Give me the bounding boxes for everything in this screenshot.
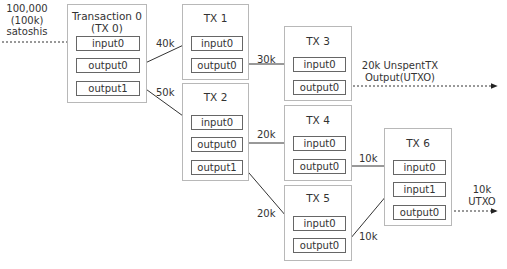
tx-title: TX 5 xyxy=(285,192,351,204)
edge-amount-tx0-tx2: 50k xyxy=(156,87,175,99)
tx0-input0[interactable]: input0 xyxy=(76,36,140,51)
tx3-output0[interactable]: output0 xyxy=(293,80,346,95)
tx6-output0[interactable]: output0 xyxy=(393,205,446,220)
transaction-0: Transaction 0 (TX 0) input0 output0 outp… xyxy=(67,4,147,103)
source-line: (100k) xyxy=(2,15,52,27)
tx0-output0[interactable]: output0 xyxy=(76,58,140,73)
utxo-line: 10k xyxy=(462,184,502,196)
transaction-4: TX 4 input0 output0 xyxy=(284,105,352,181)
tx-title: TX 3 xyxy=(285,35,351,47)
tx-title: TX 6 xyxy=(385,137,451,149)
tx-title: Transaction 0 (TX 0) xyxy=(68,10,146,34)
tx2-input0[interactable]: input0 xyxy=(191,115,243,130)
tx1-input0[interactable]: input0 xyxy=(191,36,243,51)
transaction-5: TX 5 input0 output0 xyxy=(284,185,352,261)
tx5-output0[interactable]: output0 xyxy=(293,238,346,253)
transaction-2: TX 2 input0 output0 output1 xyxy=(182,83,249,181)
tx-title-line: (TX 0) xyxy=(68,22,146,34)
tx-title-line: Transaction 0 xyxy=(68,10,146,22)
tx6-input1[interactable]: input1 xyxy=(393,182,446,197)
transaction-6: TX 6 input0 input1 output0 xyxy=(384,128,452,226)
utxo-label-tx6: 10k UTXO xyxy=(462,184,502,208)
edge-amount-tx4-tx6: 10k xyxy=(359,153,378,165)
tx4-output0[interactable]: output0 xyxy=(293,159,346,174)
tx1-output0[interactable]: output0 xyxy=(191,58,243,73)
tx-title: TX 4 xyxy=(285,114,351,126)
edge-amount-tx2-tx4: 20k xyxy=(257,129,276,141)
tx0-output1[interactable]: output1 xyxy=(76,81,140,96)
source-amount-label: 100,000 (100k) satoshis xyxy=(2,3,52,38)
tx-title: TX 2 xyxy=(183,91,248,103)
tx2-output1[interactable]: output1 xyxy=(191,160,243,175)
utxo-line: 20k UnspentTX xyxy=(350,60,450,72)
tx-title: TX 1 xyxy=(183,12,248,24)
utxo-line: UTXO xyxy=(462,196,502,208)
tx3-input0[interactable]: input0 xyxy=(293,57,346,72)
transaction-1: TX 1 input0 output0 xyxy=(182,4,249,80)
edge-amount-tx0-tx1: 40k xyxy=(156,38,175,50)
tx4-input0[interactable]: input0 xyxy=(293,136,346,151)
transaction-3: TX 3 input0 output0 xyxy=(284,26,352,101)
edge-amount-tx5-tx6: 10k xyxy=(359,231,378,243)
tx2-output0[interactable]: output0 xyxy=(191,137,243,152)
edge-amount-tx1-tx3: 30k xyxy=(257,54,276,66)
tx6-input0[interactable]: input0 xyxy=(393,160,446,175)
source-line: 100,000 xyxy=(2,3,52,15)
utxo-line: Output(UTXO) xyxy=(350,72,450,84)
utxo-label-tx3: 20k UnspentTX Output(UTXO) xyxy=(350,60,450,84)
tx5-input0[interactable]: input0 xyxy=(293,216,346,231)
source-line: satoshis xyxy=(2,26,52,38)
edge-amount-tx2-tx5: 20k xyxy=(257,208,276,220)
